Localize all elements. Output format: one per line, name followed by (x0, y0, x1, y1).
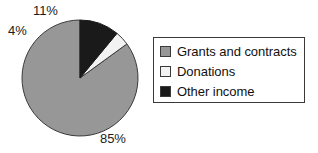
legend-label-grants-and-contracts: Grants and contracts (177, 45, 297, 58)
pie-chart-figure: 11% 4% 85% Grants and contracts Donation… (0, 0, 318, 153)
legend-label-donations: Donations (177, 65, 235, 78)
legend-item-donations[interactable]: Donations (160, 61, 304, 81)
legend-label-other-income: Other income (177, 85, 254, 98)
pie-label-grants-and-contracts: 85% (100, 132, 126, 145)
chart-legend: Grants and contracts Donations Other inc… (153, 37, 305, 103)
legend-items-container: Grants and contracts Donations Other inc… (154, 38, 304, 102)
legend-item-grants-and-contracts[interactable]: Grants and contracts (160, 41, 304, 61)
legend-swatch-grants-and-contracts (160, 46, 171, 57)
legend-item-other-income[interactable]: Other income (160, 81, 304, 101)
pie-label-donations: 4% (8, 24, 27, 37)
legend-swatch-donations (160, 66, 171, 77)
pie-label-other-income: 11% (33, 4, 58, 17)
legend-swatch-other-income (160, 86, 171, 97)
pie-chart-plot-area: 11% 4% 85% (0, 0, 160, 153)
